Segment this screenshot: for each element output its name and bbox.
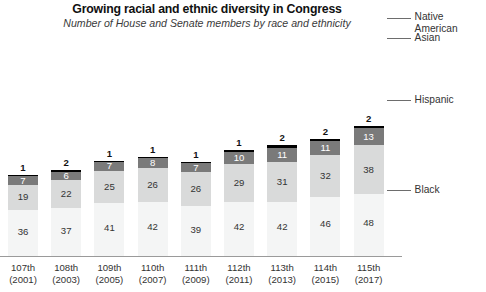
chart-root: Growing racial and ethnic diversity in C…: [0, 0, 486, 292]
legend-label-line: Native: [415, 11, 458, 23]
x-tick-year: (2013): [259, 274, 305, 286]
bar-value-asian: 8: [138, 158, 168, 168]
x-tick-congress: 113th: [259, 262, 305, 274]
bar-value-native-american: 2: [310, 127, 340, 137]
x-tick-year: (2015): [302, 274, 348, 286]
x-tick-year: (2011): [216, 274, 262, 286]
bar-segment-native-american: [224, 150, 254, 151]
bar-value-hispanic: 22: [51, 189, 81, 199]
plot-area: 361971107th(2001)372262108th(2003)412571…: [0, 0, 486, 292]
bar-value-native-american: 1: [138, 145, 168, 155]
bar-value-asian: 7: [94, 161, 124, 171]
bar-group: 422681: [138, 0, 168, 256]
bar-segment-native-american: [8, 175, 38, 176]
bar-value-black: 42: [138, 222, 168, 232]
x-tick-label: 107th(2001): [0, 262, 46, 285]
x-tick-congress: 112th: [216, 262, 262, 274]
x-tick-congress: 108th: [43, 262, 89, 274]
bar-segment-native-american: [138, 157, 168, 158]
bar-group: 4838132: [354, 0, 384, 256]
bar-value-hispanic: 25: [94, 182, 124, 192]
bar-value-native-american: 2: [354, 114, 384, 124]
x-axis-line: [0, 256, 402, 257]
bar-value-black: 39: [181, 225, 211, 235]
x-tick-congress: 111th: [173, 262, 219, 274]
bar-segment-native-american: [267, 145, 297, 148]
bar-value-black: 41: [94, 223, 124, 233]
x-tick-year: (2003): [43, 274, 89, 286]
x-tick-label: 115th(2017): [346, 262, 392, 285]
legend-label-native-american: NativeAmerican: [415, 11, 458, 34]
x-tick-label: 114th(2015): [302, 262, 348, 285]
bar-value-hispanic: 26: [181, 184, 211, 194]
x-tick-label: 113th(2013): [259, 262, 305, 285]
bar-value-hispanic: 38: [354, 165, 384, 175]
bar-value-asian: 6: [51, 171, 81, 181]
bar-segment-native-american: [354, 126, 384, 129]
bar-value-hispanic: 26: [138, 180, 168, 190]
bar-value-native-american: 2: [267, 133, 297, 143]
bar-group: 4231112: [267, 0, 297, 256]
bar-group: 4229101: [224, 0, 254, 256]
x-tick-year: (2007): [130, 274, 176, 286]
bar-value-hispanic: 32: [310, 171, 340, 181]
bar-value-black: 42: [267, 222, 297, 232]
x-tick-year: (2001): [0, 274, 46, 286]
x-tick-label: 108th(2003): [43, 262, 89, 285]
bar-value-black: 37: [51, 226, 81, 236]
legend-label-hispanic: Hispanic: [415, 94, 454, 106]
bar-value-asian: 11: [267, 150, 297, 160]
x-tick-label: 111th(2009): [173, 262, 219, 285]
bar-value-asian: 7: [8, 176, 38, 186]
bar-segment-native-american: [51, 170, 81, 173]
bar-value-native-american: 1: [8, 163, 38, 173]
bar-value-hispanic: 19: [8, 192, 38, 202]
bar-group: 392671: [181, 0, 211, 256]
bar-value-hispanic: 29: [224, 178, 254, 188]
bar-group: 4632112: [310, 0, 340, 256]
bar-segment-native-american: [94, 161, 124, 162]
legend-connector-line: [387, 100, 411, 101]
bar-value-asian: 13: [354, 132, 384, 142]
bar-value-asian: 10: [224, 153, 254, 163]
bar-value-black: 42: [224, 222, 254, 232]
x-tick-congress: 107th: [0, 262, 46, 274]
legend-connector-line: [387, 38, 411, 39]
bar-value-asian: 7: [181, 163, 211, 173]
x-tick-congress: 114th: [302, 262, 348, 274]
bar-value-asian: 11: [310, 143, 340, 153]
bar-value-native-american: 1: [94, 149, 124, 159]
bar-value-native-american: 2: [51, 158, 81, 168]
bar-segment-native-american: [181, 162, 211, 163]
bar-value-native-american: 1: [181, 150, 211, 160]
x-tick-label: 109th(2005): [86, 262, 132, 285]
legend-label-black: Black: [415, 184, 440, 196]
bar-segment-native-american: [310, 139, 340, 142]
bar-group: 412571: [94, 0, 124, 256]
legend-connector-line: [387, 190, 411, 191]
legend-label-asian: Asian: [415, 32, 440, 44]
x-tick-label: 110th(2007): [130, 262, 176, 285]
x-tick-congress: 109th: [86, 262, 132, 274]
legend-connector-line: [387, 18, 411, 19]
x-tick-year: (2009): [173, 274, 219, 286]
bar-value-native-american: 1: [224, 138, 254, 148]
x-tick-label: 112th(2011): [216, 262, 262, 285]
bar-value-black: 46: [310, 219, 340, 229]
x-tick-year: (2017): [346, 274, 392, 286]
bar-value-hispanic: 31: [267, 177, 297, 187]
x-tick-year: (2005): [86, 274, 132, 286]
bar-value-black: 36: [8, 227, 38, 237]
bar-group: 361971: [8, 0, 38, 256]
bar-group: 372262: [51, 0, 81, 256]
x-tick-congress: 115th: [346, 262, 392, 274]
x-tick-congress: 110th: [130, 262, 176, 274]
bar-value-black: 48: [354, 218, 384, 228]
